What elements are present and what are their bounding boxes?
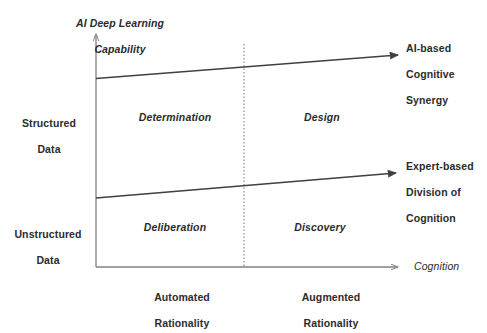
arrow-label-ai-based-line3: Synergy — [406, 94, 486, 107]
y-axis-title-line2: Capability — [60, 43, 180, 56]
row-label-unstructured-data: Unstructured Data — [2, 215, 94, 280]
column-label-augmented-line2: Rationality — [275, 317, 387, 330]
arrow-label-ai-based-line1: AI-based — [406, 42, 486, 55]
column-label-augmented-rationality: Augmented Rationality — [275, 278, 387, 333]
column-label-automated-line2: Rationality — [126, 317, 238, 330]
column-label-automated-rationality: Automated Rationality — [126, 278, 238, 333]
row-label-unstructured-data-line1: Unstructured — [2, 228, 94, 241]
quadrant-label-design: Design — [260, 111, 384, 124]
x-axis-name: Cognition — [414, 260, 486, 273]
trend-arrow-expert-based-division-of-cognition — [96, 173, 396, 198]
quadrant-label-discovery: Discovery — [258, 221, 382, 234]
row-label-structured-data-line2: Data — [6, 143, 92, 156]
arrow-label-expert-based-line3: Cognition — [406, 212, 487, 225]
arrow-label-expert-based-division-of-cognition: Expert-based Division of Cognition — [406, 147, 487, 238]
column-label-automated-line1: Automated — [126, 291, 238, 304]
y-axis-title-line1: AI Deep Learning — [60, 17, 180, 30]
quadrant-label-deliberation: Deliberation — [113, 221, 237, 234]
row-label-unstructured-data-line2: Data — [2, 254, 94, 267]
y-axis-title: AI Deep Learning Capability — [60, 4, 180, 69]
arrow-label-expert-based-line1: Expert-based — [406, 160, 487, 173]
column-label-augmented-line1: Augmented — [275, 291, 387, 304]
arrow-label-ai-based-cognitive-synergy: AI-based Cognitive Synergy — [406, 29, 486, 120]
arrow-label-ai-based-line2: Cognitive — [406, 68, 486, 81]
row-label-structured-data-line1: Structured — [6, 117, 92, 130]
arrow-label-expert-based-line2: Division of — [406, 186, 487, 199]
row-label-structured-data: Structured Data — [6, 104, 92, 169]
quadrant-label-determination: Determination — [113, 111, 237, 124]
